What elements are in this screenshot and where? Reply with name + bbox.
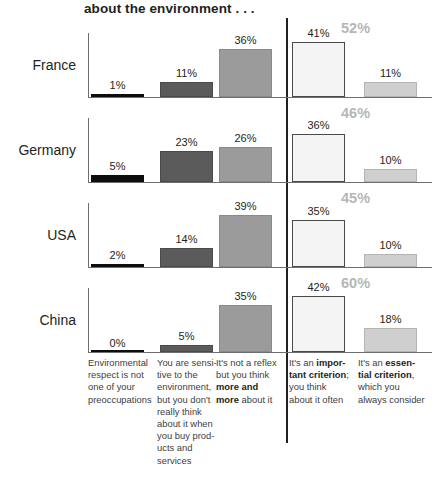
bar: [219, 49, 272, 97]
bar: [364, 328, 417, 352]
category-description-5: It's an essen-tial criterion, which you …: [358, 357, 428, 406]
bar: [219, 215, 272, 267]
bar-value: 11%: [160, 67, 213, 79]
cat4-text-pre: It's an: [289, 357, 316, 368]
bar: [91, 350, 144, 352]
bars-china: 0% 5% 35% 42% 18%: [88, 275, 432, 353]
bar: [91, 94, 144, 97]
bar: [364, 82, 417, 97]
cat5-text-pre: It's an: [358, 357, 385, 368]
category-description-3: It's not a reflex but you think more and…: [216, 357, 277, 406]
country-label-france: France: [0, 57, 76, 73]
bar-value: 0%: [91, 337, 144, 349]
bars-france: 1% 11% 36% 41% 11%: [88, 20, 432, 98]
country-label-china: China: [0, 312, 76, 328]
category-description-2: You are sensi-tive to the environment, b…: [157, 357, 218, 467]
category-description-4: It's an impor-tant criterion; you think …: [289, 357, 352, 406]
country-label-germany: Germany: [0, 142, 76, 158]
bar: [160, 82, 213, 97]
bar-value: 36%: [292, 119, 345, 131]
bar-value: 36%: [219, 34, 272, 46]
bar: [292, 296, 345, 352]
country-label-usa: USA: [0, 227, 76, 243]
bars-germany: 5% 23% 26% 36% 10%: [88, 105, 432, 183]
bar-value: 42%: [292, 281, 345, 293]
bar: [292, 220, 345, 267]
bar-value: 26%: [219, 132, 272, 144]
bar-value: 23%: [160, 136, 213, 148]
bar-value: 35%: [219, 290, 272, 302]
bar: [91, 175, 144, 182]
bar-value: 41%: [292, 27, 345, 39]
bar-value: 5%: [160, 330, 213, 342]
bar: [91, 264, 144, 267]
bar: [219, 305, 272, 352]
chart-row-france: France 52% 1% 11% 36% 41% 11%: [0, 20, 437, 105]
chart-row-usa: USA 45% 2% 14% 39% 35% 10%: [0, 190, 437, 275]
bar-value: 35%: [292, 205, 345, 217]
chart-title: about the environment . . .: [84, 1, 255, 16]
category-description-1: Environmental respect is not one of your…: [88, 357, 149, 406]
bar: [160, 345, 213, 352]
bar-value: 14%: [160, 233, 213, 245]
bar: [364, 254, 417, 267]
bar-value: 18%: [364, 313, 417, 325]
bar: [364, 169, 417, 182]
bars-usa: 2% 14% 39% 35% 10%: [88, 190, 432, 268]
cat3-text-post: about it: [239, 394, 272, 405]
bar: [219, 147, 272, 182]
cat3-text-pre: It's not a reflex but you think: [216, 357, 277, 380]
bar-value: 10%: [364, 154, 417, 166]
bar-value: 11%: [364, 67, 417, 79]
environment-attitudes-bar-chart: about the environment . . . France 52% 1…: [0, 0, 437, 503]
bar-value: 39%: [219, 200, 272, 212]
bar: [160, 248, 213, 267]
bar-value: 5%: [91, 160, 144, 172]
bar: [292, 134, 345, 182]
chart-row-germany: Germany 46% 5% 23% 26% 36% 10%: [0, 105, 437, 190]
chart-row-china: China 60% 0% 5% 35% 42% 18%: [0, 275, 437, 360]
bar-value: 10%: [364, 239, 417, 251]
bar-value: 1%: [91, 79, 144, 91]
bar: [292, 42, 345, 97]
category-descriptions: Environmental respect is not one of your…: [88, 357, 432, 503]
bar: [160, 151, 213, 182]
bar-value: 2%: [91, 249, 144, 261]
